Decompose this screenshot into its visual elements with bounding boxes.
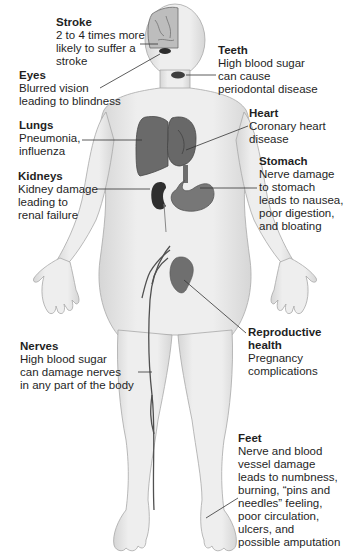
callout-title: Feet <box>238 432 340 445</box>
callout-description: Pregnancy complications <box>248 352 322 378</box>
callout-kidneys: Kidneys Kidney damage leading to renal f… <box>18 170 98 222</box>
heart-illustration <box>168 117 197 166</box>
callout-title: Reproductive health <box>248 326 322 352</box>
callout-description: Kidney damage leading to renal failure <box>18 183 98 222</box>
callout-title: Nerves <box>20 340 134 353</box>
callout-description: Blurred vision leading to blindness <box>19 82 121 108</box>
callout-title: Heart <box>249 107 326 120</box>
lung-illustration <box>136 117 168 176</box>
callout-description: High blood sugar can cause periodontal d… <box>218 57 318 96</box>
callout-description: High blood sugar can damage nerves in an… <box>20 353 134 392</box>
callout-stomach: Stomach Nerve damage to stomach leads to… <box>259 155 343 233</box>
callout-lungs: Lungs Pneumonia, influenza <box>19 119 80 158</box>
callout-title: Kidneys <box>18 170 98 183</box>
callout-nerves: Nerves High blood sugar can damage nerve… <box>20 340 134 392</box>
brain-illustration <box>148 7 178 48</box>
callout-description: Coronary heart disease <box>249 120 326 146</box>
callout-feet: Feet Nerve and blood vessel damage leads… <box>238 432 340 549</box>
callout-heart: Heart Coronary heart disease <box>249 107 326 146</box>
callout-description: Nerve and blood vessel damage leads to n… <box>238 445 340 549</box>
eye-illustration <box>159 48 171 54</box>
callout-title: Eyes <box>19 69 121 82</box>
callout-description: Nerve damage to stomach leads to nausea,… <box>259 168 343 233</box>
callout-title: Stroke <box>56 16 145 29</box>
mouth-illustration <box>171 72 185 79</box>
callout-title: Teeth <box>218 44 318 57</box>
callout-description: 2 to 4 times more likely to suffer a str… <box>56 29 145 68</box>
callout-reproductive-health: Reproductive health Pregnancy complicati… <box>248 326 322 378</box>
callout-title: Lungs <box>19 119 80 132</box>
callout-teeth: Teeth High blood sugar can cause periodo… <box>218 44 318 96</box>
callout-eyes: Eyes Blurred vision leading to blindness <box>19 69 121 108</box>
callout-stroke: Stroke 2 to 4 times more likely to suffe… <box>56 16 145 68</box>
callout-title: Stomach <box>259 155 343 168</box>
callout-description: Pneumonia, influenza <box>19 132 80 158</box>
esophagus-illustration <box>183 165 188 183</box>
